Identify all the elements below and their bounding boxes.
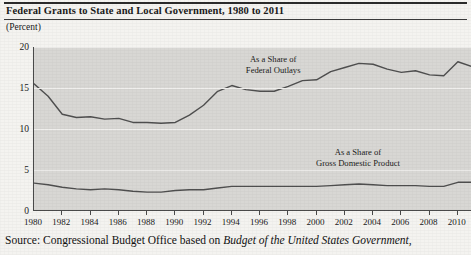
x-tick-mark <box>400 211 401 215</box>
y-tick-label: 15 <box>3 83 29 93</box>
x-tick-mark <box>174 211 175 215</box>
x-tick-mark <box>316 211 317 215</box>
x-tick-mark <box>146 211 147 215</box>
x-tick-label: 1994 <box>222 217 240 227</box>
gridline <box>34 129 471 130</box>
source-note: Source: Congressional Budget Office base… <box>5 233 470 247</box>
x-tick-label: 1986 <box>109 217 127 227</box>
series-label-line2: Gross Domestic Product <box>316 158 400 169</box>
x-tick-label: 2006 <box>391 217 409 227</box>
y-tick-label: 5 <box>3 165 29 175</box>
x-tick-mark <box>61 211 62 215</box>
series-label-line2: Federal Outlays <box>246 65 301 76</box>
x-tick-mark <box>429 211 430 215</box>
x-tick-label: 1988 <box>137 217 155 227</box>
x-tick-label: 1984 <box>81 217 99 227</box>
x-tick-label: 2004 <box>363 217 381 227</box>
gridline <box>34 170 471 171</box>
x-tick-mark <box>259 211 260 215</box>
gridline <box>34 47 471 48</box>
y-tick-label: 20 <box>3 42 29 52</box>
page-title: Federal Grants to State and Local Govern… <box>6 4 446 17</box>
x-tick-label: 1982 <box>52 217 70 227</box>
x-tick-mark <box>90 211 91 215</box>
series-label-line1: As a Share of <box>246 54 301 65</box>
x-tick-mark <box>457 211 458 215</box>
x-tick-label: 2000 <box>307 217 325 227</box>
x-tick-mark <box>231 211 232 215</box>
x-tick-mark <box>372 211 373 215</box>
line-gross-domestic-product <box>34 182 471 192</box>
y-tick-label: 10 <box>3 124 29 134</box>
series-label-federal-outlays: As a Share ofFederal Outlays <box>246 54 301 76</box>
gridline <box>34 88 471 89</box>
x-tick-label: 2010 <box>448 217 466 227</box>
x-tick-label: 1980 <box>24 217 42 227</box>
series-label-gross-domestic-product: As a Share ofGross Domestic Product <box>316 147 400 169</box>
x-tick-label: 1996 <box>250 217 268 227</box>
x-tick-label: 1998 <box>278 217 296 227</box>
source-prefix: Source: Congressional Budget Office base… <box>5 234 223 246</box>
y-axis: 05101520 <box>0 47 29 211</box>
x-tick-mark <box>118 211 119 215</box>
x-tick-label: 1990 <box>165 217 183 227</box>
x-axis: 1980198219841986198819901992199419961998… <box>0 217 471 229</box>
x-axis-ticks <box>0 211 471 216</box>
chart: 05101520 1980198219841986198819901992199… <box>0 34 471 229</box>
x-tick-label: 2002 <box>335 217 353 227</box>
figure-page: Federal Grants to State and Local Govern… <box>0 0 471 255</box>
axis-unit-label: (Percent) <box>6 21 41 33</box>
x-tick-label: 2008 <box>420 217 438 227</box>
series-label-line1: As a Share of <box>316 147 400 158</box>
x-tick-label: 1992 <box>194 217 212 227</box>
source-italic-title: Budget of the United States Government, <box>223 234 411 246</box>
x-tick-mark <box>203 211 204 215</box>
x-tick-mark <box>287 211 288 215</box>
x-tick-mark <box>344 211 345 215</box>
title-rule-bottom <box>4 19 467 20</box>
